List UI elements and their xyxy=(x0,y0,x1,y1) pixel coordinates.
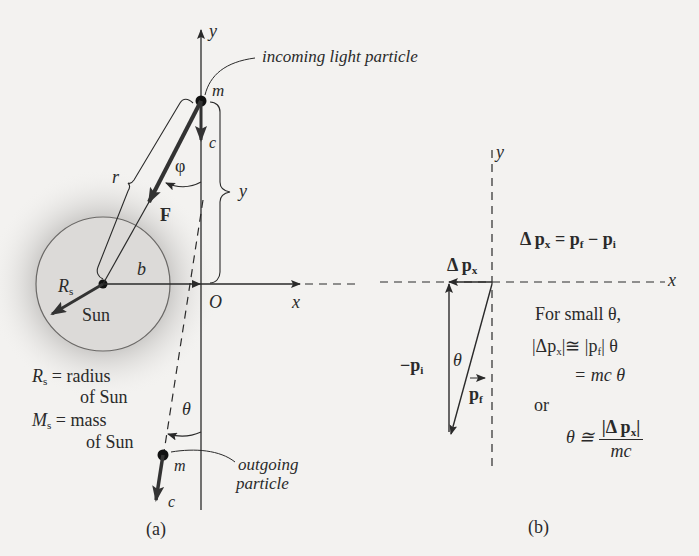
or-text: or xyxy=(534,396,549,414)
outgoing-velocity-arrow xyxy=(156,455,163,500)
speed-label-incoming: c xyxy=(209,135,216,151)
phi-arc xyxy=(166,182,201,187)
theta-arc-a xyxy=(168,432,201,436)
y-bracket-label: y xyxy=(239,182,247,200)
legend-rs: Rs = radius xyxy=(32,367,110,387)
caption-a: (a) xyxy=(146,520,166,538)
r-label: r xyxy=(112,168,119,186)
speed-label-outgoing: c xyxy=(168,494,175,510)
outgoing-label-line1: outgoing xyxy=(238,456,298,473)
b-label: b xyxy=(137,260,146,278)
mass-label-incoming: m xyxy=(212,82,224,99)
incoming-particle-label: incoming light particle xyxy=(262,48,418,65)
neg-pi-label: −pi xyxy=(400,356,423,376)
sun-radius-label: Rs xyxy=(58,277,73,297)
sun-label: Sun xyxy=(82,306,110,324)
x-axis-label-a: x xyxy=(292,293,300,311)
diagram-graphics xyxy=(0,0,699,556)
delta-px-label: Δ px xyxy=(447,256,477,276)
pf-label: pf xyxy=(469,385,483,405)
outgoing-label-line2: particle xyxy=(236,475,289,492)
legend-ms: Ms = mass xyxy=(32,411,107,431)
theta-solution-equation: θ ≅ |Δ px| mc xyxy=(566,418,643,460)
mass-label-outgoing: m xyxy=(174,458,186,474)
fraction: |Δ px| mc xyxy=(599,418,643,460)
theta-label-a: θ xyxy=(182,400,191,418)
force-arrow xyxy=(149,101,201,202)
x-axis-label-b: x xyxy=(668,271,676,289)
delta-px-equation: Δ px = pf − pi xyxy=(520,230,616,250)
y-axis-label-a: y xyxy=(209,22,217,40)
legend-rs-line2: of Sun xyxy=(80,388,128,406)
gravitational-light-bending-figure: y incoming light particle m c φ r y F b … xyxy=(0,0,699,556)
force-label: F xyxy=(160,206,171,224)
theta-label-b: θ xyxy=(453,351,462,369)
phi-label: φ xyxy=(175,157,185,175)
legend-ms-line2: of Sun xyxy=(86,433,134,451)
y-axis-label-b: y xyxy=(496,143,504,161)
origin-label: O xyxy=(209,293,222,311)
approx-equation: |Δpx|≅ |pf| θ xyxy=(532,337,618,357)
caption-b: (b) xyxy=(528,518,549,536)
small-theta-text: For small θ, xyxy=(535,305,621,323)
mc-theta-equation: = mc θ xyxy=(574,366,625,384)
